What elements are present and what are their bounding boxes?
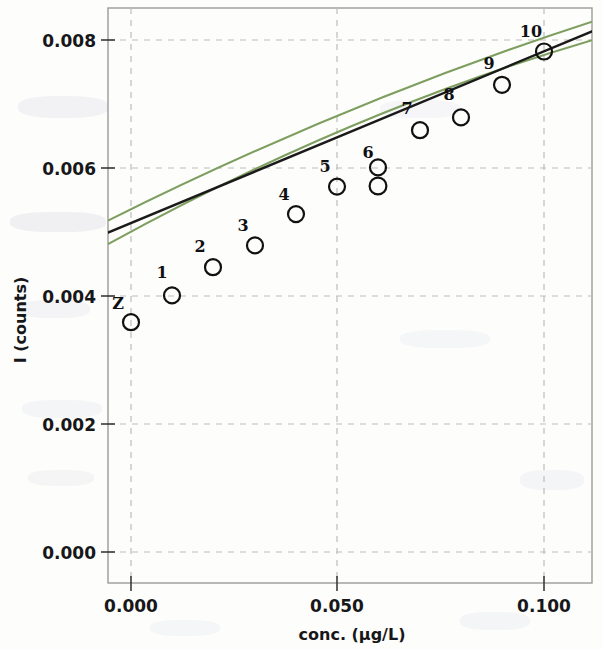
point-label-6: 6 bbox=[362, 143, 373, 162]
x-tick-label-2: 0.100 bbox=[517, 596, 571, 616]
point-label-7: 7 bbox=[401, 99, 412, 118]
data-point-4 bbox=[288, 206, 304, 222]
confidence-band-lower bbox=[108, 40, 592, 244]
x-axis-title: conc. (µg/L) bbox=[299, 625, 406, 644]
point-label-4: 4 bbox=[278, 185, 289, 204]
y-tick-label-1: 0.002 bbox=[42, 415, 96, 435]
point-label-8: 8 bbox=[443, 85, 454, 104]
x-tick-label-0: 0.000 bbox=[104, 596, 158, 616]
y-axis-title: I (counts) bbox=[11, 277, 30, 364]
data-point-3 bbox=[247, 237, 263, 253]
x-tick-label-1: 0.050 bbox=[310, 596, 364, 616]
point-label-5: 5 bbox=[319, 157, 330, 176]
confidence-band-upper bbox=[108, 22, 592, 221]
y-tick-label-4: 0.008 bbox=[42, 31, 96, 51]
point-label-2: 2 bbox=[194, 237, 205, 256]
y-tick-label-2: 0.004 bbox=[42, 287, 96, 307]
y-tick-label-0: 0.000 bbox=[42, 543, 96, 563]
data-point-outlier bbox=[370, 178, 387, 195]
figure-canvas: Z 1 2 3 4 5 6 7 8 9 10 0.000 0.002 0.004… bbox=[0, 0, 603, 649]
point-label-z: Z bbox=[112, 294, 124, 313]
point-label-9: 9 bbox=[483, 54, 494, 73]
point-label-3: 3 bbox=[237, 216, 248, 235]
y-tick-label-3: 0.006 bbox=[42, 159, 96, 179]
point-label-1: 1 bbox=[156, 263, 167, 282]
data-point-2 bbox=[205, 259, 221, 275]
regression-line bbox=[108, 31, 592, 232]
chart-svg: Z 1 2 3 4 5 6 7 8 9 10 0.000 0.002 0.004… bbox=[0, 0, 603, 649]
data-point-9 bbox=[494, 77, 510, 93]
point-label-10: 10 bbox=[520, 22, 542, 41]
data-point-8 bbox=[453, 109, 469, 125]
data-point-7 bbox=[412, 122, 428, 138]
